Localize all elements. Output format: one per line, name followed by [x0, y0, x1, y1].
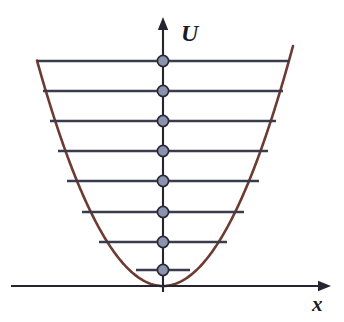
energy-level-dot — [157, 145, 168, 156]
x-axis-arrowhead-icon — [318, 281, 331, 291]
energy-level-dot — [157, 115, 168, 126]
figure-canvas — [0, 0, 344, 322]
y-axis-label: U — [181, 20, 198, 47]
parabolic-potential-curve — [37, 46, 293, 286]
x-axis-label: x — [312, 292, 323, 317]
energy-level-dot — [157, 236, 168, 247]
axes-group — [11, 17, 331, 292]
y-axis-arrowhead-icon — [158, 17, 168, 30]
energy-level-dot — [157, 264, 168, 275]
energy-level-dot — [157, 175, 168, 186]
energy-level-dot — [157, 206, 168, 217]
potential-curve-group — [37, 46, 293, 286]
harmonic-oscillator-figure: U x — [0, 0, 344, 322]
energy-level-dot — [157, 85, 168, 96]
energy-level-dot — [157, 55, 168, 66]
